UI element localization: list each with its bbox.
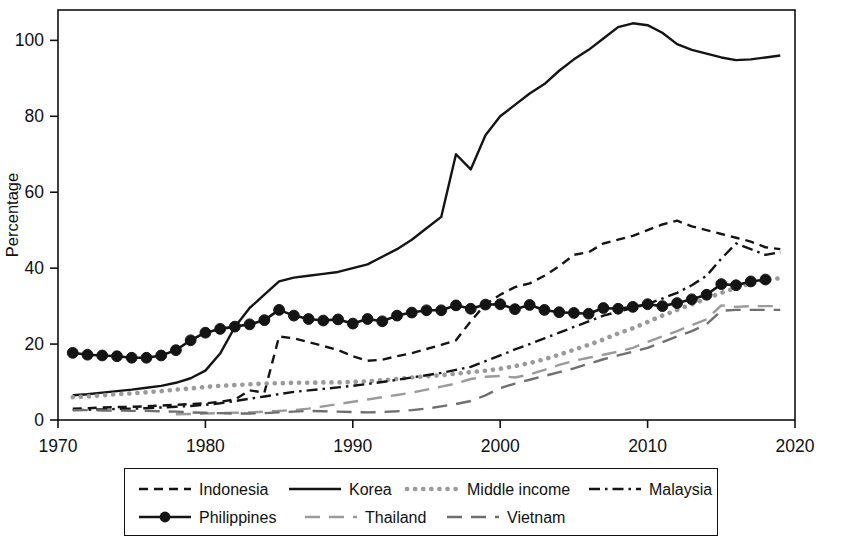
y-axis-tick-label: 60 — [25, 182, 45, 202]
series-marker-philippines — [539, 305, 550, 316]
legend-label-thailand: Thailand — [365, 509, 426, 526]
series-marker-philippines — [82, 349, 93, 360]
series-marker-philippines — [392, 310, 403, 321]
series-marker-philippines — [156, 350, 167, 361]
series-marker-philippines — [716, 279, 727, 290]
legend-svg: IndonesiaKoreaMiddle incomeMalaysiaPhili… — [125, 469, 715, 533]
series-marker-philippines — [303, 314, 314, 325]
legend-label-malaysia: Malaysia — [649, 481, 712, 498]
series-marker-philippines — [333, 314, 344, 325]
y-axis-tick-label: 20 — [25, 334, 45, 354]
x-axis-tick-label: 2020 — [776, 436, 815, 456]
legend-label-middle-income: Middle income — [467, 481, 570, 498]
series-marker-philippines — [185, 335, 196, 346]
plot-area-container: 020406080100197019801990200020102020Perc… — [0, 0, 843, 460]
x-axis-tick-label: 1970 — [39, 436, 78, 456]
series-marker-philippines — [613, 303, 624, 314]
series-marker-philippines — [569, 308, 580, 319]
series-marker-philippines — [451, 300, 462, 311]
series-marker-philippines — [229, 321, 240, 332]
plot-frame — [58, 10, 795, 420]
legend-label-korea: Korea — [349, 481, 392, 498]
x-axis-tick-label: 1990 — [333, 436, 372, 456]
series-marker-philippines — [701, 289, 712, 300]
legend-label-vietnam: Vietnam — [507, 509, 565, 526]
y-axis-tick-label: 40 — [25, 258, 45, 278]
series-marker-philippines — [200, 327, 211, 338]
series-marker-philippines — [97, 350, 108, 361]
x-axis-tick-label: 2000 — [481, 436, 520, 456]
series-marker-philippines — [627, 301, 638, 312]
series-marker-philippines — [480, 299, 491, 310]
series-marker-philippines — [524, 300, 535, 311]
series-marker-philippines — [274, 305, 285, 316]
series-marker-philippines — [171, 345, 182, 356]
series-marker-philippines — [495, 299, 506, 310]
series-marker-philippines — [465, 303, 476, 314]
series-line-malaysia — [73, 243, 781, 410]
series-marker-philippines — [67, 347, 78, 358]
series-marker-philippines — [554, 307, 565, 318]
chart-figure: 020406080100197019801990200020102020Perc… — [0, 0, 843, 542]
series-marker-philippines — [657, 301, 668, 312]
series-marker-philippines — [126, 352, 137, 363]
series-marker-philippines — [510, 304, 521, 315]
legend-marker-philippines — [160, 512, 171, 523]
legend-label-indonesia: Indonesia — [199, 481, 268, 498]
line-chart-svg: 020406080100197019801990200020102020Perc… — [0, 0, 843, 460]
series-line-korea — [73, 23, 781, 395]
series-marker-philippines — [760, 274, 771, 285]
series-marker-philippines — [215, 323, 226, 334]
x-axis-tick-label: 2010 — [628, 436, 667, 456]
series-marker-philippines — [141, 352, 152, 363]
legend-label-philippines: Philippines — [199, 509, 276, 526]
series-marker-philippines — [745, 276, 756, 287]
series-marker-philippines — [421, 305, 432, 316]
series-marker-philippines — [642, 299, 653, 310]
series-marker-philippines — [362, 314, 373, 325]
series-marker-philippines — [731, 280, 742, 291]
series-marker-philippines — [583, 308, 594, 319]
y-axis-tick-label: 80 — [25, 106, 45, 126]
series-marker-philippines — [672, 298, 683, 309]
series-line-vietnam — [73, 310, 781, 414]
series-marker-philippines — [377, 316, 388, 327]
series-marker-philippines — [318, 315, 329, 326]
series-marker-philippines — [347, 318, 358, 329]
series-marker-philippines — [259, 315, 270, 326]
series-marker-philippines — [686, 294, 697, 305]
series-marker-philippines — [406, 307, 417, 318]
series-marker-philippines — [598, 303, 609, 314]
y-axis-title: Percentage — [3, 173, 21, 257]
series-marker-philippines — [436, 305, 447, 316]
series-marker-philippines — [244, 319, 255, 330]
y-axis-tick-label: 100 — [15, 30, 44, 50]
series-marker-philippines — [288, 310, 299, 321]
chart-legend: IndonesiaKoreaMiddle incomeMalaysiaPhili… — [124, 468, 718, 536]
series-marker-philippines — [112, 351, 123, 362]
y-axis-tick-label: 0 — [34, 410, 44, 430]
x-axis-tick-label: 1980 — [186, 436, 225, 456]
